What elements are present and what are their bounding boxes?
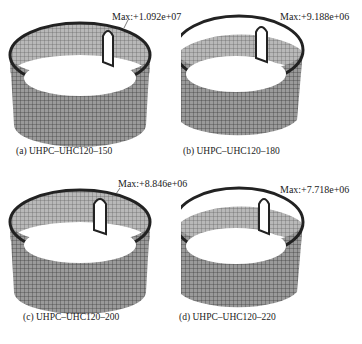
max-stress-label: Max:+9.188e+06 bbox=[280, 11, 349, 22]
panel-a: Max:+1.092e+07 (a) UHPC–UHC120–150 bbox=[0, 0, 181, 172]
max-stress-label: Max:+7.718e+06 bbox=[280, 184, 349, 195]
panel-d: Max:+7.718e+06 (d) UHPC–UHC120–220 bbox=[181, 172, 362, 344]
panel-caption: (a) UHPC–UHC120–150 bbox=[16, 146, 112, 156]
max-stress-label: Max:+1.092e+07 bbox=[112, 11, 181, 22]
max-stress-label: Max:+8.846e+06 bbox=[118, 178, 187, 189]
panel-caption: (b) UHPC–UHC120–180 bbox=[183, 146, 280, 156]
panel-c: Max:+8.846e+06 (c) UHPC–UHC120–200 bbox=[0, 172, 181, 344]
panel-caption: (c) UHPC–UHC120–200 bbox=[23, 312, 119, 322]
panel-caption: (d) UHPC–UHC120–220 bbox=[179, 312, 276, 322]
panel-b: Max:+9.188e+06 (b) UHPC–UHC120–180 bbox=[181, 0, 362, 172]
